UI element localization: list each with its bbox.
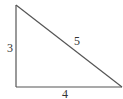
triangle-diagram: 3 5 4 [0, 0, 123, 99]
label-vertical: 3 [7, 41, 13, 55]
side-hypotenuse [16, 5, 122, 87]
label-hypotenuse: 5 [74, 34, 80, 48]
label-horizontal: 4 [62, 87, 68, 99]
